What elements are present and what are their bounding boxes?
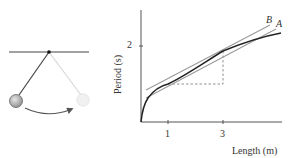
- x-axis-label: Length (m): [232, 145, 277, 156]
- swing-arrow-icon: [25, 108, 72, 114]
- line-A-label: A: [276, 18, 282, 29]
- period-length-chart: [139, 10, 282, 124]
- pendulum-bob-ghost: [77, 94, 89, 106]
- pendulum-pivot: [47, 50, 51, 54]
- pendulum-string: [19, 52, 49, 95]
- y-tick-label-2: 2: [127, 39, 132, 50]
- line-B-secant: [146, 25, 270, 90]
- period-curve: [141, 33, 281, 122]
- y-axis-label: Period (s): [112, 52, 123, 98]
- figure: [0, 0, 290, 158]
- line-B-label: B: [266, 14, 272, 25]
- pendulum-illustration: [9, 50, 89, 114]
- x-tick-label-3: 3: [220, 128, 225, 139]
- x-tick-label-1: 1: [165, 128, 170, 139]
- pendulum-string-ghost: [49, 52, 81, 95]
- pendulum-bob: [10, 95, 23, 108]
